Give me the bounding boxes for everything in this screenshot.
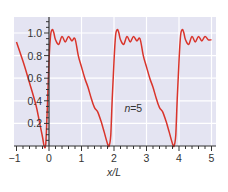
chart: −1012345 0.20.40.60.81.0 x/L n=5 [0, 0, 228, 192]
x-tick-label: 5 [209, 152, 215, 164]
x-axis: −1012345 [9, 146, 216, 164]
y-tick-label: 0.4 [27, 95, 42, 107]
y-tick-label: 0.6 [27, 72, 42, 84]
y-tick-label: 0.8 [27, 50, 42, 62]
x-tick-label: 4 [176, 152, 182, 164]
x-axis-title: x/L [106, 166, 121, 178]
x-tick-label: 1 [79, 152, 85, 164]
x-tick-label: 0 [46, 152, 52, 164]
y-tick-label: 0.2 [27, 117, 42, 129]
x-tick-label: 2 [111, 152, 117, 164]
x-tick-label: 3 [144, 152, 150, 164]
x-tick-label: −1 [9, 152, 21, 164]
annotation-n: n=5 [124, 102, 142, 114]
y-tick-label: 1.0 [27, 27, 42, 39]
